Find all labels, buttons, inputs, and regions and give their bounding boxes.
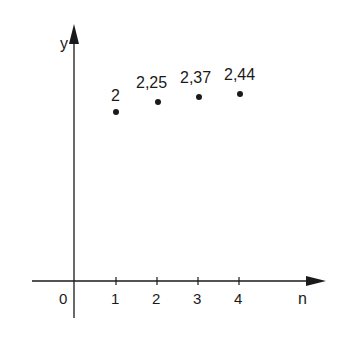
point-labels: 2 2,25 2,37 2,44 [111, 66, 255, 104]
y-axis-arrow-icon [69, 24, 79, 44]
point-label-1: 2 [111, 87, 120, 104]
tick-label-4: 4 [234, 290, 242, 307]
origin-label: 0 [59, 290, 67, 307]
data-points [113, 91, 243, 115]
y-axis-label: y [60, 35, 68, 52]
x-tick-labels: 1 2 3 4 [111, 290, 242, 307]
point-label-4: 2,44 [224, 66, 255, 83]
tick-label-1: 1 [111, 290, 119, 307]
point-label-3: 2,37 [180, 69, 211, 86]
point-3 [196, 94, 202, 100]
sequence-plot: y n 0 1 2 3 4 2 2,25 2,37 2,44 [0, 0, 338, 342]
point-label-2: 2,25 [136, 74, 167, 91]
point-2 [155, 99, 161, 105]
point-1 [113, 109, 119, 115]
x-axis-label: n [298, 290, 307, 307]
point-4 [237, 91, 243, 97]
x-axis-arrow-icon [306, 276, 326, 286]
tick-label-2: 2 [152, 290, 160, 307]
tick-label-3: 3 [193, 290, 201, 307]
